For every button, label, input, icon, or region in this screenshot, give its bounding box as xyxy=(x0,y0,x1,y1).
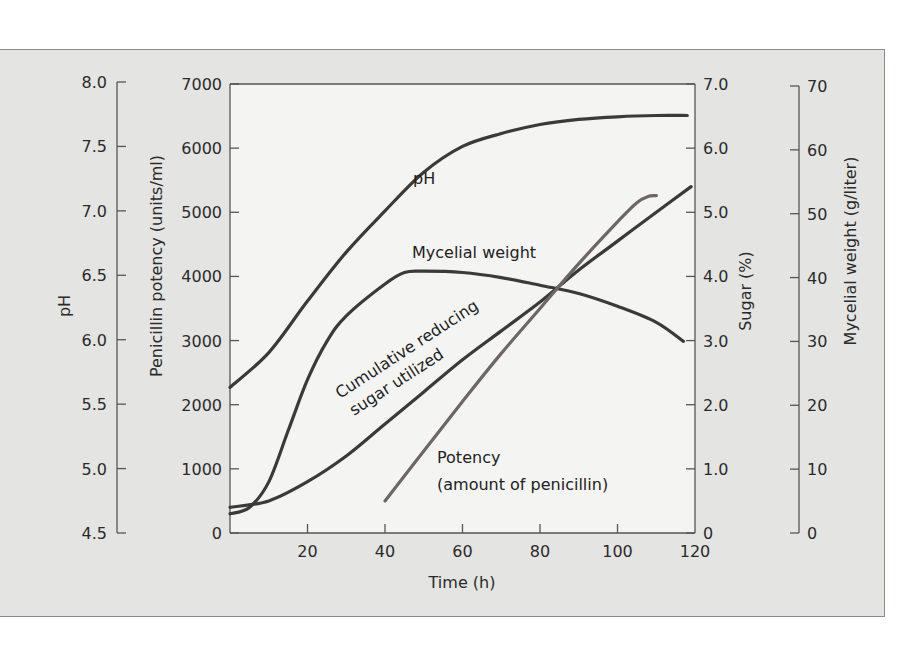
ph-tick-label: 6.5 xyxy=(82,266,107,285)
potency-tick-label: 4000 xyxy=(181,267,222,286)
potency-tick-label: 5000 xyxy=(181,203,222,222)
ph-tick-label: 7.0 xyxy=(82,202,107,221)
sugar-tick-label: 4.0 xyxy=(703,267,728,286)
x-tick-label: 60 xyxy=(452,542,472,561)
x-tick-label: 100 xyxy=(602,542,633,561)
sugar-tick-label: 5.0 xyxy=(703,203,728,222)
sugar-tick-label: 7.0 xyxy=(703,75,728,94)
potency-tick-label: 3000 xyxy=(181,332,222,351)
sugar-tick-label: 2.0 xyxy=(703,396,728,415)
mycelial-tick-label: 50 xyxy=(807,205,827,224)
mycelial-tick-label: 70 xyxy=(807,77,827,96)
mycelial-tick-label: 0 xyxy=(807,524,817,543)
potency-tick-label: 2000 xyxy=(181,396,222,415)
sugar-tick-label: 6.0 xyxy=(703,139,728,158)
x-tick-label: 40 xyxy=(375,542,395,561)
mycelial-axis-title: Mycelial weight (g/liter) xyxy=(841,157,860,346)
chart-svg: 4.55.05.56.06.57.07.58.00100020003000400… xyxy=(0,50,885,618)
x-tick-label: 120 xyxy=(680,542,711,561)
mycelial-tick-label: 40 xyxy=(807,269,827,288)
sugar-axis-title: Sugar (%) xyxy=(736,251,755,331)
potency-tick-label: 6000 xyxy=(181,139,222,158)
mycelial-tick-label: 30 xyxy=(807,332,827,351)
potency-axis-title: Penicillin potency (units/ml) xyxy=(147,155,166,377)
sugar-tick-label: 3.0 xyxy=(703,332,728,351)
mycelial-tick-label: 60 xyxy=(807,141,827,160)
ph-tick-label: 7.5 xyxy=(82,137,107,156)
mycelial-tick-label: 10 xyxy=(807,460,827,479)
ph-tick-label: 5.0 xyxy=(82,460,107,479)
x-axis-title: Time (h) xyxy=(428,573,496,592)
ph-curve-label: pH xyxy=(413,169,435,188)
potency-tick-label: 0 xyxy=(212,524,222,543)
ph-axis-title: pH xyxy=(55,295,74,317)
ph-tick-label: 5.5 xyxy=(82,395,107,414)
ph-tick-label: 6.0 xyxy=(82,331,107,350)
ph-tick-label: 4.5 xyxy=(82,524,107,543)
x-tick-label: 20 xyxy=(297,542,317,561)
sugar-tick-label: 0 xyxy=(703,524,713,543)
chart-figure: 4.55.05.56.06.57.07.58.00100020003000400… xyxy=(0,49,885,617)
potency-tick-label: 1000 xyxy=(181,460,222,479)
potency-label-line2: (amount of penicillin) xyxy=(437,475,608,494)
mycelial-tick-label: 20 xyxy=(807,396,827,415)
ph-tick-label: 8.0 xyxy=(82,73,107,92)
mycelial-weight-label: Mycelial weight xyxy=(412,243,536,262)
sugar-tick-label: 1.0 xyxy=(703,460,728,479)
potency-label-line1: Potency xyxy=(437,448,500,467)
x-tick-label: 80 xyxy=(530,542,550,561)
potency-tick-label: 7000 xyxy=(181,75,222,94)
